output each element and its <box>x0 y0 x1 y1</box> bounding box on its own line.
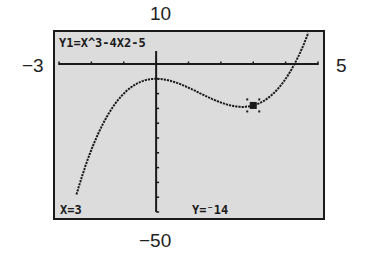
trace-x-value: X=3 <box>60 203 82 217</box>
function-curve <box>77 33 309 195</box>
axes <box>59 51 318 212</box>
equation-label: Y1=X^3-4X2-5 <box>59 36 146 50</box>
trace-cursor-icon <box>246 98 260 112</box>
trace-y-value: Y=⁻14 <box>192 203 228 217</box>
graph-plot: Y1=X^3-4X2-5 X=3 Y=⁻14 <box>0 0 365 257</box>
